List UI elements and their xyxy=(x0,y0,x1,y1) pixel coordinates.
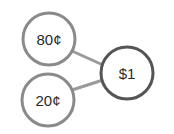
connector-bottom xyxy=(72,80,103,90)
part-circle-bottom: 20¢ xyxy=(22,74,74,126)
part-circle-top: 80¢ xyxy=(23,13,75,65)
part-label-bottom: 20¢ xyxy=(35,92,60,109)
whole-label: $1 xyxy=(119,65,136,82)
part-label-top: 80¢ xyxy=(36,31,61,48)
number-bond-diagram: 80¢ 20¢ $1 xyxy=(0,0,174,134)
connector-top xyxy=(72,51,103,65)
whole-circle: $1 xyxy=(101,47,153,99)
